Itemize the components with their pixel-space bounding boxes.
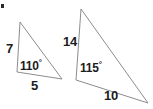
triangles-svg [0,0,153,109]
right-triangle-angle-value: 115 [80,61,99,75]
left-triangle-angle-label: 110° [20,59,42,72]
left-triangle-degree-symbol: ° [39,58,42,67]
right-triangle-side-bottom-label: 10 [104,89,118,102]
right-triangle-degree-symbol: ° [99,60,102,69]
geometry-figure: 7 5 110° 14 10 115° [0,0,153,109]
right-triangle-angle-label: 115° [80,61,102,74]
right-triangle-side-left-label: 14 [63,35,77,48]
left-triangle-side-left-label: 7 [6,42,13,55]
left-triangle-angle-value: 110 [20,59,39,73]
left-triangle-side-bottom-label: 5 [31,79,38,92]
